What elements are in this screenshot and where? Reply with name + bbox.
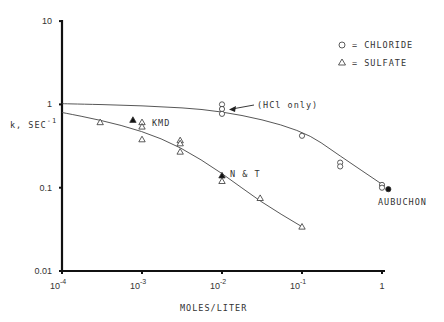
triangle-marker-icon [219,178,225,184]
x-tick-label: 10-1 [290,278,306,291]
y-axis-label: k, SEC-1 [10,117,57,130]
x-tick-label: 10-2 [210,278,226,291]
triangle-marker-icon [139,136,145,142]
y-tick-label: 1 [47,99,52,109]
legend-chloride: = CHLORIDE [352,40,413,50]
x-tick-label: 10-4 [50,278,66,291]
y-tick-label: 0.1 [39,183,52,193]
x-tick-label: 10-3 [130,278,146,291]
circle-marker-icon [386,187,391,192]
legend-circle-icon [339,42,345,48]
axes: 1010.10.0110-410-310-210-11 [34,16,385,291]
arrowhead-icon [229,106,236,112]
triangle-marker-icon [257,195,263,201]
y-tick-label: 0.01 [34,266,52,276]
x-axis-label: MOLES/LITER [180,303,247,313]
circle-marker-icon [299,133,304,138]
legend: = CHLORIDE = SULFATE [339,40,414,68]
circle-marker-icon [219,111,224,116]
x-tick-label: 1 [379,281,384,291]
annotation-hcl-only: (HCl only) [257,100,318,110]
triangle-marker-icon [299,224,305,230]
annotation-n-and-t: N & T [230,169,261,179]
legend-triangle-icon [339,59,346,65]
annotation-aubuchon: AUBUCHON [378,197,427,207]
circle-marker-icon [219,106,224,111]
annotation-kmd: KMD [152,118,170,128]
circle-marker-icon [379,185,384,190]
y-tick-label: 10 [42,16,52,26]
chart: 1010.10.0110-410-310-210-11 k, SEC-1 MOL… [0,0,444,322]
triangle-marker-icon [130,117,136,123]
sulfate-curve [62,112,302,226]
data-points [97,102,391,229]
fit-curves [62,104,382,227]
legend-sulfate: = SULFATE [352,58,407,68]
circle-marker-icon [338,164,343,169]
